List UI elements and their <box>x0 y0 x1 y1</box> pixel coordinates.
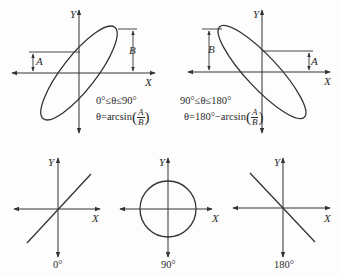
b-label: B <box>208 44 215 55</box>
formula-prefix: θ=180°−arcsin <box>184 111 246 122</box>
phase-range-caption: 90°≤θ≤180° θ=180°−arcsin(AB) <box>180 94 263 127</box>
x-axis-label: X <box>145 77 152 88</box>
phase-label: 180° <box>274 260 294 271</box>
b-label: B <box>129 45 136 56</box>
a-label: A <box>36 56 43 67</box>
x-axis-label: X <box>212 213 219 224</box>
x-axis-label: X <box>92 213 99 224</box>
range-text: 90°≤θ≤180° <box>180 94 263 107</box>
lissajous-phase-diagram: Y X A B 0°≤θ≤90° θ=arcsin(AB) Y X A B 90… <box>0 0 340 277</box>
formula: θ=arcsin(AB) <box>96 108 150 127</box>
phase-label: 90° <box>161 260 176 271</box>
formula-prefix: θ=arcsin <box>96 111 132 122</box>
x-axis-label: X <box>324 76 331 87</box>
panel-line-0 <box>14 158 100 257</box>
diagram-graphics <box>0 0 340 277</box>
panel-circle-90 <box>120 158 212 257</box>
a-label: A <box>311 56 318 67</box>
fraction-a-over-b: AB <box>137 108 145 127</box>
y-axis-label: Y <box>48 157 54 168</box>
phase-label: 0° <box>53 260 62 271</box>
y-axis-label: Y <box>70 9 76 20</box>
phase-range-caption: 0°≤θ≤90° θ=arcsin(AB) <box>96 94 150 127</box>
range-text: 0°≤θ≤90° <box>96 94 150 107</box>
y-axis-label: Y <box>274 157 280 168</box>
x-axis-label: X <box>324 213 331 224</box>
formula: θ=180°−arcsin(AB) <box>180 108 263 127</box>
y-axis-label: Y <box>159 157 165 168</box>
panel-line-180 <box>233 158 330 257</box>
y-axis-label: Y <box>253 9 259 20</box>
